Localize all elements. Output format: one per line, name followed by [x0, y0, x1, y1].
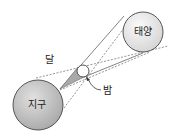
earth-label: 지구	[28, 100, 46, 110]
sun-label: 태양	[134, 27, 152, 37]
night-arrowhead	[86, 76, 90, 81]
diagram-canvas	[0, 0, 175, 137]
moon-circle	[77, 65, 89, 77]
moon-label: 달	[45, 55, 54, 65]
night-arrow	[88, 79, 101, 90]
night-label: 밤	[103, 86, 112, 96]
